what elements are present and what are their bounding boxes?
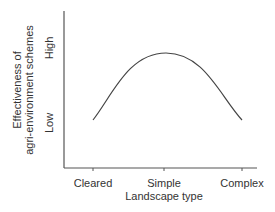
hump-curve-chart: Cleared Simple Complex Landscape type Ef… <box>0 0 275 212</box>
y-tick-label-high: High <box>43 37 55 60</box>
y-axis-label-line1: Effectiveness of <box>11 50 23 128</box>
x-axis-label: Landscape type <box>125 190 203 202</box>
chart-container: Cleared Simple Complex Landscape type Ef… <box>0 0 275 212</box>
x-tick-label-cleared: Cleared <box>74 177 113 189</box>
effectiveness-curve <box>93 53 242 120</box>
y-axis-label-line2: agri-environment schemes <box>23 25 35 155</box>
y-tick-label-low: Low <box>43 113 55 133</box>
x-tick-label-complex: Complex <box>220 177 264 189</box>
x-tick-label-simple: Simple <box>147 177 181 189</box>
